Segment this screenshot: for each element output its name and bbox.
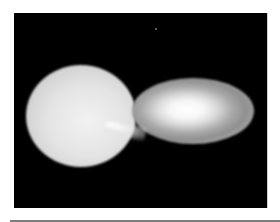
bottom-divider bbox=[10, 220, 280, 222]
background-star bbox=[155, 28, 157, 30]
accretion-disk bbox=[132, 78, 254, 144]
illustration-frame bbox=[14, 13, 268, 208]
donor-star bbox=[26, 65, 136, 167]
